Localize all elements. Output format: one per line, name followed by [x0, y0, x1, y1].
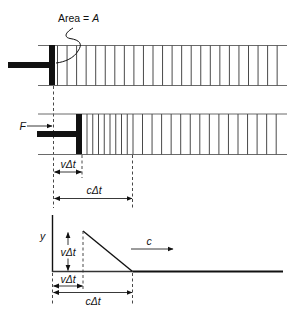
wave-distance-label: cΔt: [85, 295, 101, 307]
piston-rod: [8, 62, 50, 68]
panel-surge-profile: y vΔt c vΔt cΔt: [39, 215, 283, 307]
surge-front-slope: [83, 231, 133, 272]
panel-initial-state: Area = A: [8, 12, 287, 86]
panel-pushed-state: F vΔt cΔt: [20, 114, 288, 208]
piston-rod: [37, 131, 77, 137]
area-symbol: A: [91, 12, 99, 24]
y-axis-label: y: [39, 230, 46, 242]
height-label: vΔt: [60, 246, 76, 258]
piston-displacement-label: vΔt: [60, 273, 76, 285]
fluid-slices: [87, 114, 276, 155]
fluid-slices: [58, 46, 278, 86]
piston-plate: [49, 45, 55, 85]
piston-displacement-label: vΔt: [60, 158, 76, 170]
piston-wave-diagram: Area = A F vΔt cΔt y vΔt c: [0, 0, 296, 319]
piston-plate: [76, 114, 82, 154]
wave-distance-label: cΔt: [86, 184, 102, 196]
wave-speed-label: c: [146, 235, 152, 247]
force-label: F: [20, 120, 27, 132]
area-label: Area = A: [58, 12, 99, 24]
